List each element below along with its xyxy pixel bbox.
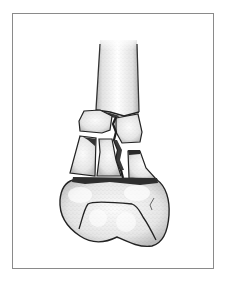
fragment-upper-left — [79, 110, 112, 133]
fragment-upper-right — [116, 114, 142, 143]
fragment-lower-left — [70, 136, 96, 176]
shaft — [96, 36, 140, 116]
fragment-lower-right — [128, 150, 157, 180]
condyles — [60, 177, 169, 246]
fracture-illustration — [0, 0, 228, 283]
